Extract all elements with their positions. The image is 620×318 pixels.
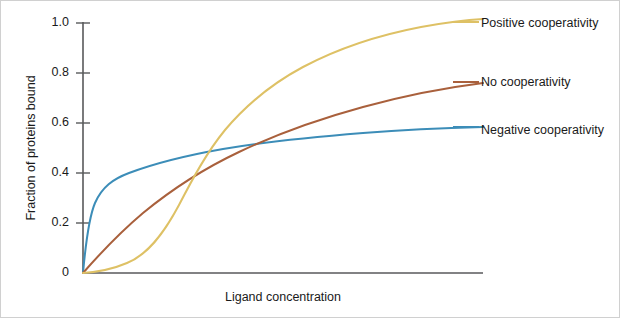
series-labels-group: Positive cooperativity No cooperativity … (453, 16, 605, 137)
y-tick-label-0.6: 0.6 (52, 115, 69, 129)
series-label-positive: Positive cooperativity (481, 16, 599, 30)
curve-no-cooperativity (83, 83, 483, 273)
y-tick-group: 1.0 0.8 0.6 0.4 0.2 0 (52, 15, 90, 279)
series-label-negative: Negative cooperativity (481, 123, 605, 137)
curves-group (83, 19, 483, 273)
axis-group (83, 22, 483, 273)
curve-positive-cooperativity (83, 19, 483, 273)
y-tick-label-1.0: 1.0 (52, 15, 69, 29)
y-axis-title: Fraction of proteins bound (24, 75, 38, 220)
x-axis-title: Ligand concentration (225, 290, 341, 304)
figure-container: 1.0 0.8 0.6 0.4 0.2 0 Fraction of protei… (0, 0, 620, 318)
y-tick-label-0.2: 0.2 (52, 215, 69, 229)
y-tick-label-0.8: 0.8 (52, 65, 69, 79)
y-tick-label-0.4: 0.4 (52, 165, 69, 179)
curve-negative-cooperativity (83, 127, 483, 273)
series-label-none: No cooperativity (481, 75, 571, 89)
y-tick-label-0: 0 (62, 265, 69, 279)
cooperativity-binding-chart: 1.0 0.8 0.6 0.4 0.2 0 Fraction of protei… (1, 1, 620, 318)
